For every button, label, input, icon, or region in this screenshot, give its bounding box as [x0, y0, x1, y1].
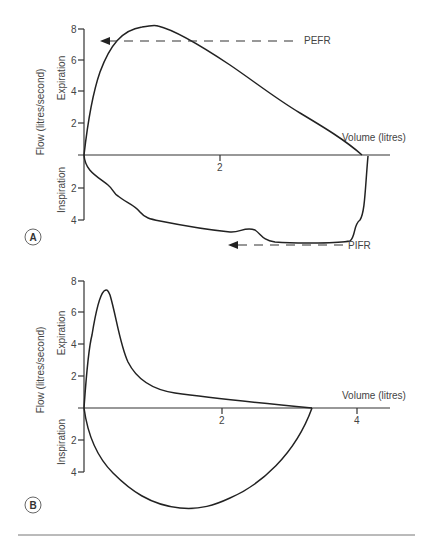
flow-volume-figure: 8 6 4 2 2 4 2 Volume (litres) Flow (litr…: [0, 0, 425, 543]
pefr-label: PEFR: [304, 35, 331, 46]
y-axis-label: Flow (litres/second): [35, 327, 46, 414]
y-tick-insp-4: 4: [71, 467, 77, 478]
y-tick-8: 8: [71, 276, 77, 287]
panel-b-letter: B: [30, 500, 37, 511]
y-tick-insp-2: 2: [71, 435, 77, 446]
y-tick-4: 4: [71, 86, 77, 97]
x-axis-label: Volume (litres): [342, 132, 406, 143]
inspiration-label: Inspiration: [56, 167, 67, 213]
y-tick-2: 2: [71, 118, 77, 129]
panel-a: 8 6 4 2 2 4 2 Volume (litres) Flow (litr…: [25, 24, 406, 251]
x-tick-4: 4: [354, 415, 360, 426]
inspiration-label: Inspiration: [56, 419, 67, 465]
y-tick-6: 6: [71, 307, 77, 318]
panel-b: 8 6 4 2 2 4 2 4 Volume (litres) Flow (li…: [25, 276, 406, 513]
expiration-label: Expiration: [56, 311, 67, 355]
x-tick-2: 2: [219, 415, 225, 426]
x-axis-label: Volume (litres): [342, 390, 406, 401]
y-tick-4: 4: [71, 339, 77, 350]
inspiration-curve-a: [84, 155, 368, 243]
expiration-label: Expiration: [56, 56, 67, 100]
y-tick-2: 2: [71, 371, 77, 382]
y-axis-label: Flow (litres/second): [35, 69, 46, 156]
y-tick-insp-4: 4: [71, 215, 77, 226]
pefr-arrow-icon: [100, 37, 110, 45]
expiration-curve-b: [84, 290, 312, 408]
pifr-label: PIFR: [348, 240, 371, 251]
y-tick-8: 8: [71, 24, 77, 35]
x-tick-2: 2: [217, 162, 223, 173]
pifr-arrow-icon: [228, 241, 238, 249]
y-tick-6: 6: [71, 55, 77, 66]
inspiration-curve-b: [84, 408, 312, 508]
panel-a-letter: A: [30, 232, 37, 243]
y-tick-insp-2: 2: [71, 183, 77, 194]
